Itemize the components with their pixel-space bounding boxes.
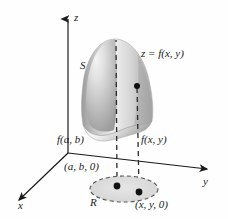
z-axis-label: z	[74, 12, 78, 23]
diagram-canvas	[0, 0, 228, 219]
y-axis-label: y	[203, 176, 208, 187]
surface-highlight	[86, 39, 117, 132]
x-axis-label: x	[18, 200, 23, 211]
point-x-y-0-dot	[136, 189, 143, 196]
surface-diagram-figure: z y x S z = f(x, y) f(a, b) f(x, y) (a, …	[0, 0, 228, 219]
point-on-surface-dot	[134, 83, 140, 89]
region-name-label: R	[90, 197, 97, 208]
height-at-xy-label: f(x, y)	[141, 134, 167, 145]
surface-name-label: S	[80, 60, 86, 71]
height-at-ab-label: f(a, b)	[57, 134, 84, 145]
point-a-b-0-dot	[114, 183, 121, 190]
point-ab0-label: (a, b, 0)	[64, 161, 99, 172]
x-axis	[19, 153, 68, 200]
surface-equation-label: z = f(x, y)	[141, 48, 184, 59]
point-xy0-label: (x, y, 0)	[135, 199, 168, 210]
